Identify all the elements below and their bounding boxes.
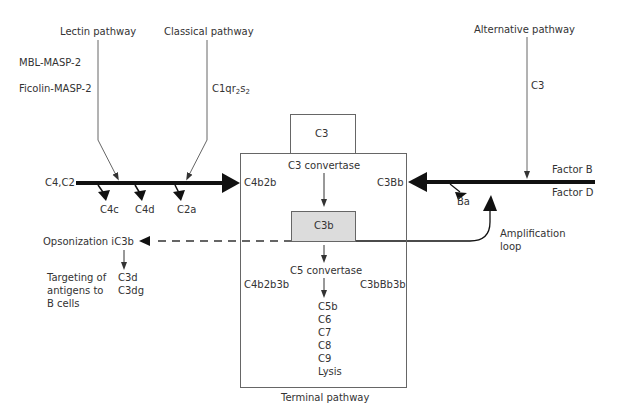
terminal-components-list: C5b C6 C7 C8 C9 Lysis [318,300,342,378]
c2a-label: C2a [177,204,196,216]
targeting-line-1: Targeting of [47,271,106,284]
factor-d-label: Factor D [552,187,594,199]
classical-pathway-title: Classical pathway [164,26,254,38]
c4-c2-label: C4,C2 [45,177,75,189]
c3d-label: C3d [118,271,144,284]
cleavage-arrows [98,185,185,201]
targeting-line-2: antigens to [47,284,106,297]
mbl-masp2-label: MBL-MASP-2 [19,57,81,69]
c3b-label: C3b [314,220,334,232]
c5-convertase-label: C5 convertase [290,265,362,277]
c8-label: C8 [318,339,342,352]
c3bbb3b-label: C3bBb3b [360,279,406,291]
c4c-label: C4c [100,204,119,216]
alt-c3-label: C3 [531,80,544,92]
factor-b-label: Factor B [552,164,593,176]
classical-pathway-arrow [188,40,207,177]
lectin-pathway-title: Lectin pathway [60,26,136,38]
c9-label: C9 [318,352,342,365]
targeting-line-3: B cells [47,297,106,310]
amplification-line-2: loop [500,240,566,253]
c7-label: C7 [318,326,342,339]
alternative-pathway-title: Alternative pathway [474,24,575,36]
c3-input-label: C3 [315,128,328,140]
c3dg-label: C3dg [118,284,144,297]
amplification-loop-label: Amplification loop [500,227,566,253]
c1qr2s2-label: C1qr2s2 [212,83,250,98]
ba-label: Ba [457,196,470,208]
amplification-line-1: Amplification [500,227,566,240]
c4b2b-label: C4b2b [244,177,276,189]
ficolin-masp2-label: Ficolin-MASP-2 [19,83,92,95]
terminal-pathway-caption: Terminal pathway [281,392,369,404]
lectin-pathway-arrow [98,40,117,177]
c3bb-label: C3Bb [377,177,404,189]
c4d-label: C4d [135,204,155,216]
c6-label: C6 [318,313,342,326]
targeting-label: Targeting of antigens to B cells [47,271,106,310]
lysis-label: Lysis [318,365,342,378]
c3-convertase-label: C3 convertase [288,160,360,172]
c4b2b3b-label: C4b2b3b [244,279,289,291]
c5b-label: C5b [318,300,342,313]
opsonization-label: Opsonization iC3b [43,236,134,248]
c3d-fragments: C3d C3dg [118,271,144,297]
